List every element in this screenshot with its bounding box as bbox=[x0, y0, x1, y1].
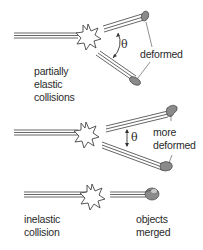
incoming-trail-3 bbox=[24, 192, 88, 197]
theta-symbol-1: θ bbox=[121, 38, 128, 51]
label-line: inelastic bbox=[24, 213, 60, 226]
label-line: merged bbox=[136, 226, 170, 239]
theta-symbol-2: θ bbox=[131, 131, 138, 144]
impact-starburst-icon-2 bbox=[74, 122, 99, 148]
label-more-deformed: more deformed bbox=[153, 126, 196, 152]
label-line: deformed bbox=[153, 139, 196, 152]
incoming-trail-2 bbox=[14, 130, 78, 135]
label-partially-elastic: partially elastic collisions bbox=[34, 65, 75, 104]
impact-starburst-icon-3 bbox=[80, 184, 105, 210]
label-line: collision bbox=[24, 226, 60, 239]
label-deformed: deformed bbox=[140, 48, 183, 61]
label-line: more bbox=[153, 126, 196, 139]
label-line: objects bbox=[136, 213, 170, 226]
upper-outgoing-trail bbox=[103, 14, 144, 32]
more-deformed-object-upper bbox=[166, 105, 177, 116]
label-objects-merged: objects merged bbox=[136, 213, 170, 239]
incoming-trail bbox=[14, 33, 78, 38]
impact-starburst-icon bbox=[76, 24, 101, 50]
more-deformed-object-lower bbox=[160, 162, 172, 172]
deformed-object-upper bbox=[140, 10, 150, 22]
label-line: collisions bbox=[34, 91, 75, 104]
outgoing-trail-3 bbox=[110, 192, 146, 197]
label-inelastic-collision: inelastic collision bbox=[24, 213, 60, 239]
deformed-object-lower bbox=[128, 75, 142, 87]
panel-inelastic bbox=[24, 184, 159, 210]
label-line: partially bbox=[34, 65, 75, 78]
label-line: elastic bbox=[34, 78, 75, 91]
